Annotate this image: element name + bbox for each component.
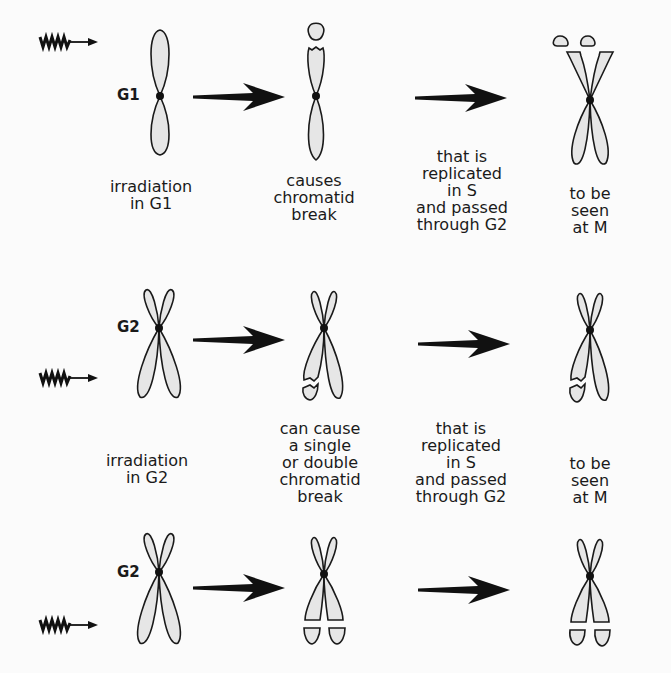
effect-label-g2: can cause a single or double chromatid b… xyxy=(279,420,360,505)
radiation-wavy-arrow-icon xyxy=(40,620,98,630)
phase-label-g2-double: G2 xyxy=(117,563,140,581)
outcome-label-g1: to be seen at M xyxy=(550,185,631,236)
single-break-chromosome-at-m xyxy=(570,294,609,402)
replicated-broken-chromosome xyxy=(553,36,613,164)
phase-label-g1: G1 xyxy=(117,86,140,104)
chromatid-break-diagram: G1 irradiation in G1 causes chromatid br… xyxy=(0,0,671,673)
diagram-canvas xyxy=(0,0,671,673)
double-break-chromosome-at-m xyxy=(570,540,610,646)
g1-chromosome xyxy=(151,30,169,155)
replication-label-g1: that is replicated in S and passed throu… xyxy=(416,148,508,233)
transition-arrow-icon xyxy=(418,576,510,604)
phase-label-g2: G2 xyxy=(117,318,140,336)
irradiation-label-g2: irradiation in G2 xyxy=(106,452,188,486)
double-break-chromosome xyxy=(304,538,345,644)
transition-arrow-icon xyxy=(193,326,285,354)
single-break-chromosome xyxy=(303,292,343,400)
outcome-label-g2: to be seen at M xyxy=(550,455,631,506)
radiation-wavy-arrow-icon xyxy=(40,37,98,47)
transition-arrow-icon xyxy=(193,574,285,602)
transition-arrow-icon xyxy=(418,330,510,358)
row-g2-single xyxy=(40,290,609,402)
g2-chromosome xyxy=(138,290,181,398)
row-g2-double xyxy=(40,534,610,646)
effect-label-g1: causes chromatid break xyxy=(273,172,354,223)
transition-arrow-icon xyxy=(415,84,507,112)
irradiation-label-g1: irradiation in G1 xyxy=(110,178,192,212)
g2-chromosome xyxy=(138,534,181,644)
broken-chromatid xyxy=(308,23,324,160)
transition-arrow-icon xyxy=(193,83,285,111)
radiation-wavy-arrow-icon xyxy=(40,373,98,383)
replication-label-g2: that is replicated in S and passed throu… xyxy=(415,420,507,505)
